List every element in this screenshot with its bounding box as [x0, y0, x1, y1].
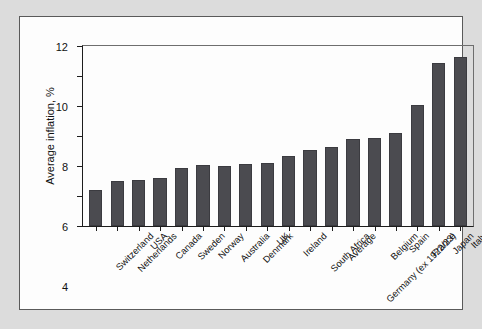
bar-slot: [235, 46, 256, 226]
bar-series: [83, 46, 473, 226]
x-axis-label: Ireland: [301, 231, 328, 258]
bar-slot: [428, 46, 449, 226]
bar-slot: [106, 46, 127, 226]
bar[interactable]: [282, 156, 295, 226]
bar-slot: [171, 46, 192, 226]
chart-figure: Average inflation, % 024681012 Switzerla…: [0, 0, 482, 329]
bar[interactable]: [196, 165, 209, 226]
bar-slot: [342, 46, 363, 226]
y-axis-title: Average inflation, %: [42, 45, 58, 227]
y-axis-title-text: Average inflation, %: [44, 87, 56, 185]
bar-slot: [449, 46, 470, 226]
bar[interactable]: [175, 168, 188, 227]
bar[interactable]: [432, 63, 445, 226]
y-axis-tick-label: 8: [62, 162, 68, 173]
bar-slot: [257, 46, 278, 226]
bar[interactable]: [389, 133, 402, 226]
bar[interactable]: [218, 166, 231, 226]
bar-slot: [278, 46, 299, 226]
bar-slot: [85, 46, 106, 226]
y-axis-tick: 0: [77, 226, 83, 227]
bar-slot: [299, 46, 320, 226]
bar[interactable]: [111, 181, 124, 226]
x-axis-labels: SwitzerlandNetherlandsUSACanadaSwedenNor…: [82, 231, 474, 321]
bar[interactable]: [346, 139, 359, 226]
bar[interactable]: [261, 163, 274, 226]
bar[interactable]: [325, 147, 338, 227]
bar[interactable]: [454, 57, 467, 226]
bar-slot: [192, 46, 213, 226]
bar[interactable]: [303, 150, 316, 227]
bar-slot: [128, 46, 149, 226]
plot-area: 024681012: [82, 45, 474, 227]
bar[interactable]: [153, 178, 166, 226]
chart-panel: Average inflation, % 024681012 Switzerla…: [19, 16, 463, 310]
y-axis-tick-label: 12: [56, 42, 68, 53]
bar[interactable]: [132, 180, 145, 226]
y-axis-tick-label: 10: [56, 102, 68, 113]
bar-slot: [385, 46, 406, 226]
bar-slot: [321, 46, 342, 226]
bar[interactable]: [411, 105, 424, 227]
bar-slot: [214, 46, 235, 226]
bar-slot: [407, 46, 428, 226]
bar-slot: [364, 46, 385, 226]
bar[interactable]: [368, 138, 381, 226]
bar[interactable]: [89, 190, 102, 226]
bar-slot: [149, 46, 170, 226]
bar[interactable]: [239, 164, 252, 226]
y-axis-tick-label: 6: [62, 222, 68, 233]
y-axis-tick-label: 4: [62, 282, 68, 293]
